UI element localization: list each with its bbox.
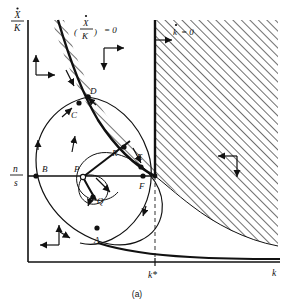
point-Q-dot xyxy=(90,194,95,199)
point-C-label: C xyxy=(71,110,78,120)
point-R-label: R xyxy=(111,148,118,158)
point-E-dot xyxy=(138,164,143,169)
y-tick-denominator: s xyxy=(14,178,18,188)
phase-diagram-svg: X K n s k k* xyxy=(0,0,287,303)
point-F-dot xyxy=(140,173,145,178)
traj-arrow-inner-up xyxy=(72,136,75,152)
k-dot-accent-label xyxy=(175,24,177,26)
y-tick-numerator: n xyxy=(13,164,18,174)
point-C: C xyxy=(71,100,82,120)
phase-diagram-figure: X K n s k k* xyxy=(0,0,287,303)
y-axis-label: X K xyxy=(11,7,24,33)
point-F-label: F xyxy=(138,181,145,191)
point-P: P xyxy=(73,164,86,180)
direction-marker-upper-middle xyxy=(104,48,124,70)
point-A: A xyxy=(93,225,100,245)
point-C-dot xyxy=(76,100,81,105)
y-tick-label-ns: n s xyxy=(10,164,23,188)
traj-arrow-bottom xyxy=(60,232,70,238)
point-kstar-intersection xyxy=(153,174,158,179)
k-label-equals: = 0 xyxy=(181,27,194,37)
xk-nullcline-label: ( X K ) = 0 xyxy=(74,15,117,41)
y-axis-numerator: X xyxy=(14,10,22,20)
point-R-dot xyxy=(121,144,126,149)
paren-open: ( xyxy=(74,27,78,37)
point-A-label: A xyxy=(93,235,100,245)
point-A-dot xyxy=(94,225,99,230)
y-axis-denominator: K xyxy=(13,23,21,33)
paren-close: ) xyxy=(93,27,97,37)
xk-label-denominator: K xyxy=(81,31,89,41)
point-B-dot xyxy=(33,173,38,178)
x-dot-accent-label xyxy=(85,15,87,17)
x-tick-label-kstar: k* xyxy=(148,270,157,280)
point-E: E xyxy=(136,152,144,170)
saddle-path-right xyxy=(98,243,280,259)
x-axis-label: k xyxy=(272,268,277,278)
point-Q-label: Q xyxy=(97,196,104,206)
point-D-label: D xyxy=(89,86,97,96)
figure-caption: (a) xyxy=(132,289,143,299)
hatched-region-right xyxy=(0,0,287,303)
point-B-label: B xyxy=(42,164,48,174)
point-E-label: E xyxy=(136,152,143,162)
point-P-dot xyxy=(80,174,85,179)
point-P-label: P xyxy=(73,164,80,174)
xk-label-numerator: X xyxy=(82,18,89,28)
direction-marker-lower-left xyxy=(40,225,59,245)
direction-marker-upper-left xyxy=(36,55,55,75)
xk-label-equals: = 0 xyxy=(104,25,117,35)
